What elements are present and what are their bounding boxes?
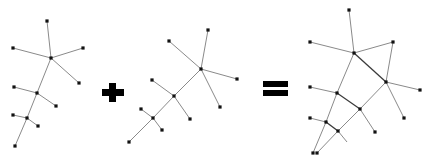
node-dot (35, 91, 38, 94)
edge (51, 58, 79, 83)
edge (27, 118, 38, 126)
edge (310, 87, 337, 93)
node-dot (352, 51, 355, 54)
plus-operator-icon (102, 83, 124, 102)
node-dot (81, 46, 84, 49)
node-dot (384, 80, 387, 83)
node-dot (13, 144, 16, 147)
node-dot (45, 19, 48, 22)
tree-a (11, 19, 84, 147)
edge (360, 82, 386, 109)
edge (153, 96, 174, 118)
edge (15, 118, 27, 146)
edge (201, 69, 220, 107)
edge (13, 48, 51, 58)
node-dot (12, 85, 15, 88)
merged-graph (308, 8, 421, 154)
equals-operator-icon (263, 81, 288, 96)
edge (129, 118, 153, 142)
node-dot (347, 8, 350, 11)
edge (338, 109, 360, 131)
node-dot (188, 117, 191, 120)
edge (326, 122, 338, 131)
node-dot (336, 129, 339, 132)
edge (310, 118, 326, 122)
tree-b (127, 28, 238, 143)
edge (354, 53, 386, 82)
node-dot (49, 56, 52, 59)
node-dot (127, 140, 130, 143)
node-dot (315, 151, 318, 154)
node-dot (324, 120, 327, 123)
edge (386, 82, 404, 118)
edge (201, 30, 208, 69)
edge (51, 48, 83, 58)
edge (37, 93, 56, 106)
node-dot (235, 77, 238, 80)
edge (386, 42, 393, 82)
graphs-layer (11, 8, 421, 154)
node-dot (308, 40, 311, 43)
node-dot (25, 116, 28, 119)
node-dot (308, 85, 311, 88)
edge (360, 109, 375, 132)
node-dot (160, 128, 163, 131)
edge (174, 96, 190, 119)
edge (326, 93, 337, 122)
node-dot (358, 107, 361, 110)
node-dot (218, 105, 221, 108)
node-dot (311, 151, 314, 154)
edge (152, 80, 174, 96)
node-dot (308, 116, 311, 119)
node-dot (150, 78, 153, 81)
node-dot (36, 124, 39, 127)
node-dot (77, 81, 80, 84)
edge (13, 115, 27, 118)
node-dot (172, 94, 175, 97)
edge (337, 53, 354, 93)
edge (317, 131, 338, 153)
edge (338, 131, 347, 142)
node-dot (11, 46, 14, 49)
node-dot (402, 116, 405, 119)
edge (386, 82, 420, 90)
edge (354, 42, 393, 53)
edge (201, 69, 237, 79)
node-dot (373, 130, 376, 133)
edge (310, 42, 354, 53)
diagram-canvas (0, 0, 430, 164)
node-dot (391, 40, 394, 43)
edge (337, 93, 360, 109)
node-dot (139, 107, 142, 110)
node-dot (418, 88, 421, 91)
node-dot (54, 104, 57, 107)
node-dot (206, 28, 209, 31)
edge (141, 109, 153, 118)
edge (349, 10, 354, 53)
node-dot (199, 67, 202, 70)
edge (169, 41, 201, 69)
node-dot (11, 113, 14, 116)
edge (37, 58, 51, 93)
node-dot (151, 116, 154, 119)
edge (14, 87, 37, 93)
edge (27, 93, 37, 118)
edge (313, 122, 326, 153)
node-dot (335, 91, 338, 94)
edge (47, 21, 51, 58)
edge (174, 69, 201, 96)
edge (153, 118, 162, 130)
node-dot (167, 39, 170, 42)
